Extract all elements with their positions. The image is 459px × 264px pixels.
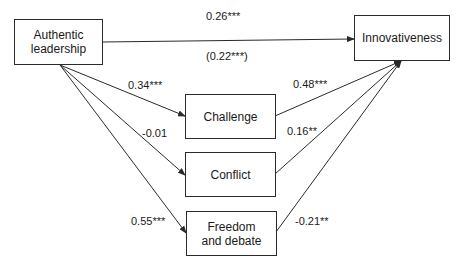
node-authentic-leadership-line1: Authentic <box>31 28 86 42</box>
node-freedom-line2: and debate <box>201 234 261 248</box>
coef-al-challenge: 0.34*** <box>128 79 162 91</box>
coef-conflict-innovativeness: 0.16** <box>287 125 317 137</box>
coef-al-innovativeness-direct: (0.22***) <box>206 50 248 62</box>
node-conflict-label: Conflict <box>210 168 250 182</box>
node-innovativeness: Innovativeness <box>354 15 450 61</box>
node-authentic-leadership: Authentic leadership <box>14 19 103 65</box>
coef-challenge-innovativeness: 0.48*** <box>293 78 327 90</box>
coef-freedom-innovativeness: -0.21** <box>295 215 329 227</box>
arrow-al-conflict <box>60 65 185 175</box>
coef-al-innovativeness-total: 0.26*** <box>206 10 240 22</box>
coef-al-freedom: 0.55*** <box>131 215 165 227</box>
node-conflict: Conflict <box>185 152 276 197</box>
arrow-al-innovativeness <box>102 39 354 42</box>
node-freedom-line1: Freedom <box>201 220 261 234</box>
node-challenge: Challenge <box>185 94 276 139</box>
node-challenge-label: Challenge <box>203 110 257 124</box>
node-innovativeness-label: Innovativeness <box>362 31 442 45</box>
node-authentic-leadership-line2: leadership <box>31 42 86 56</box>
coef-al-conflict: -0.01 <box>142 127 167 139</box>
node-freedom-and-debate: Freedom and debate <box>186 211 277 256</box>
